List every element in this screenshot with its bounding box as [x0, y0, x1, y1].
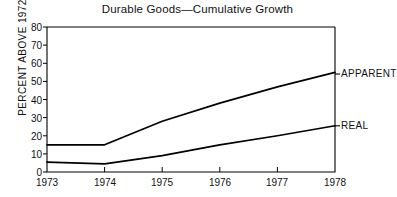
y-axis-ticks	[43, 27, 47, 172]
x-axis-ticks	[105, 167, 278, 172]
